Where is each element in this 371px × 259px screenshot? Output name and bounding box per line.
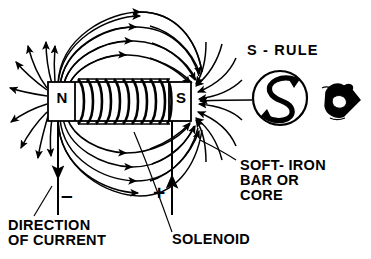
label-negative-terminal: – [61,184,73,205]
leader-direction-of-current [34,186,52,216]
label-positive-terminal: + [153,182,166,203]
label-north-pole: N [51,89,73,106]
hand-grip-symbol [322,84,360,120]
s-rule-symbol [253,71,307,125]
label-direction-of-current: DIRECTION OF CURRENT [8,218,106,248]
solenoid-field-diagram: DIRECTION OF CURRENT SOLENOID SOFT- IRON… [0,0,371,259]
label-solenoid: SOLENOID [172,232,250,247]
field-lines-bottom [58,117,202,196]
label-south-pole: S [172,89,190,106]
label-s-rule: S - RULE [247,43,319,58]
label-soft-iron-bar-or-core: SOFT- IRON BAR OR CORE [240,158,326,202]
field-lines-south-radial [196,42,252,162]
